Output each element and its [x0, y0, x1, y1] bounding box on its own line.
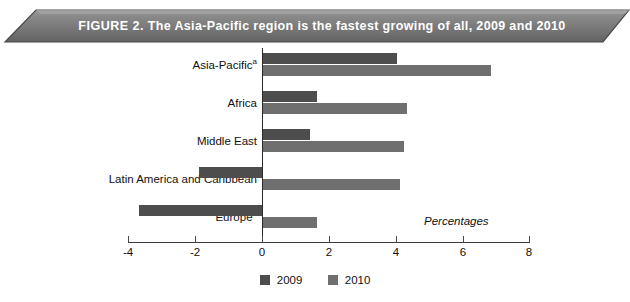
- legend-item-2009: 2009: [260, 274, 303, 286]
- x-tick-mark: [329, 236, 330, 243]
- bar-asia-pacific-2009: [263, 53, 397, 64]
- x-tick-label: -2: [175, 246, 215, 258]
- x-tick-mark: [463, 236, 464, 243]
- bar-africa-2009: [263, 91, 317, 102]
- bar-europe-2010: [263, 217, 317, 228]
- x-tick-mark: [195, 236, 196, 243]
- bar-group-middle-east: [0, 128, 630, 154]
- category-row-middle-east: Middle East: [0, 128, 630, 154]
- bar-asia-pacific-2010: [263, 65, 491, 76]
- legend-item-2010: 2010: [328, 274, 371, 286]
- x-tick-label: 2: [309, 246, 349, 258]
- legend-label-2010: 2010: [345, 274, 371, 286]
- bar-europe-2009: [139, 205, 263, 216]
- x-tick-mark: [396, 236, 397, 243]
- bar-group-africa: [0, 90, 630, 116]
- zero-axis-line: [262, 48, 263, 242]
- figure-title-text: The Asia-Pacific region is the fastest g…: [148, 19, 566, 33]
- bar-latin-america-2010: [263, 179, 400, 190]
- x-tick-label: 8: [509, 246, 549, 258]
- bar-latin-america-2009: [199, 167, 263, 178]
- legend-label-2009: 2009: [277, 274, 303, 286]
- bar-africa-2010: [263, 103, 407, 114]
- category-row-europe: Europeb: [0, 204, 630, 230]
- percentages-note: Percentages: [424, 215, 489, 227]
- legend-swatch-2010: [328, 275, 338, 285]
- x-tick-label: 0: [242, 246, 282, 258]
- bar-group-latin-america: [0, 166, 630, 192]
- bar-group-asia-pacific: [0, 52, 630, 78]
- legend-swatch-2009: [260, 275, 270, 285]
- chart-legend: 2009 2010: [0, 274, 630, 286]
- bar-group-europe: [0, 204, 630, 230]
- category-row-latin-america: Latin America and Caribbean: [0, 166, 630, 192]
- bar-middle-east-2009: [263, 129, 310, 140]
- x-tick-label: 6: [443, 246, 483, 258]
- plot-area: Asia-Pacifica Africa Middle East Latin: [0, 48, 630, 244]
- x-tick-label: 4: [376, 246, 416, 258]
- figure-number: FIGURE 2.: [78, 19, 144, 33]
- x-tick-label: -4: [108, 246, 148, 258]
- category-row-africa: Africa: [0, 90, 630, 116]
- category-row-asia-pacific: Asia-Pacifica: [0, 52, 630, 78]
- x-tick-mark: [128, 236, 129, 243]
- x-tick-mark: [529, 236, 530, 243]
- x-tick-mark: [262, 236, 263, 243]
- bar-middle-east-2010: [263, 141, 404, 152]
- bar-chart: Asia-Pacifica Africa Middle East Latin: [0, 48, 630, 302]
- figure-title: FIGURE 2. The Asia-Pacific region is the…: [0, 9, 630, 43]
- figure-banner: FIGURE 2. The Asia-Pacific region is the…: [0, 9, 630, 43]
